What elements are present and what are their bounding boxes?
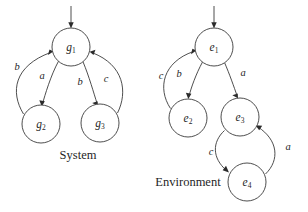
edge-g1-g2 [39,61,58,106]
edge-label-g2-g1: b [14,61,19,72]
initial-arrow-g1 [68,6,73,29]
node-label-e3-sub: 3 [241,115,245,124]
initial-arrow-e1 [211,6,216,29]
node-label-g2-sub: 2 [42,122,46,131]
edge-label-e4-e3: a [285,141,290,152]
edge-label-e1-e3: a [240,67,245,78]
node-g1[interactable]: g1 [52,28,90,66]
edge-label-e3-e4: c [209,146,214,157]
edge-e1-e3 [225,63,239,99]
caption-environment: Environment [155,175,221,189]
node-g3[interactable]: g3 [81,104,119,142]
edge-label-g3-g1: c [104,73,109,84]
caption-system: System [60,148,97,162]
node-label-e2-sub: 2 [189,116,193,125]
node-g2[interactable]: g2 [22,105,60,143]
edge-label-g1-g2: a [39,70,44,81]
node-label-e1-sub: 1 [215,45,219,54]
graph-system: a b b c g1 [14,6,122,162]
edge-label-e2-e1: c [159,70,164,81]
figure-canvas: a b b c g1 [0,0,308,212]
automata-diagram-svg: a b b c g1 [0,0,308,212]
node-e1[interactable]: e1 [195,28,233,66]
graph-environment: b c a c a [155,6,290,201]
node-e2[interactable]: e2 [169,99,207,137]
node-e4[interactable]: e4 [228,163,266,201]
node-e3[interactable]: e3 [221,98,259,136]
edge-g1-g3 [83,62,98,106]
edge-e1-e2 [186,62,203,99]
edge-label-e1-e2: b [176,68,181,79]
node-label-g3-sub: 3 [101,121,105,130]
node-label-g1-sub: 1 [72,45,76,54]
edge-g2-g1 [16,50,53,114]
edge-label-g1-g3: b [77,76,82,87]
node-label-e4-sub: 4 [248,180,252,189]
edge-e3-e4 [215,131,229,173]
